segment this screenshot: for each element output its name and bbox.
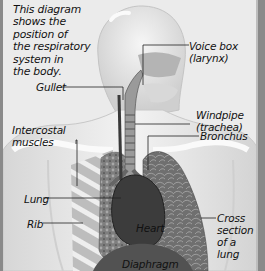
label-heart: Heart — [136, 222, 164, 234]
label-diaphragm: Diaphragm — [122, 258, 179, 270]
diagram-panel: This diagram shows the position of the r… — [3, 0, 258, 271]
diagram-frame: This diagram shows the position of the r… — [0, 0, 265, 271]
label-cross-section: Cross section of a lung — [217, 212, 258, 260]
gullet-tube — [119, 95, 121, 180]
label-lung: Lung — [24, 193, 49, 205]
label-gullet: Gullet — [36, 81, 66, 93]
label-voice-box: Voice box (larynx) — [189, 40, 238, 64]
label-bronchus: Bronchus — [200, 130, 248, 142]
label-intercostal-muscles: Intercostal muscles — [12, 124, 66, 148]
label-rib: Rib — [27, 218, 43, 230]
head-silhouette — [98, 6, 186, 115]
intro-caption: This diagram shows the position of the r… — [13, 4, 93, 78]
